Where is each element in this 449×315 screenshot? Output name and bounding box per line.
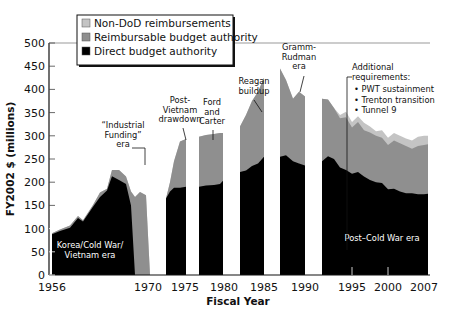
x-tick-label: 1985 xyxy=(250,281,278,294)
annotation: FordandCarter xyxy=(199,97,226,126)
y-tick-label: 200 xyxy=(24,176,45,189)
y-tick-label: 150 xyxy=(24,199,45,212)
x-tick-label: 1970 xyxy=(134,281,162,294)
requirements-title: Additionalrequirements: xyxy=(352,62,410,82)
x-tick-label: 2007 xyxy=(410,281,438,294)
x-tick-label: 1990 xyxy=(291,281,319,294)
legend-label: Non-DoD reimbursements xyxy=(94,17,231,29)
legend-swatch xyxy=(82,33,90,41)
y-tick-label: 50 xyxy=(31,246,45,259)
y-axis-title: FY2002 $ (millions) xyxy=(4,102,16,217)
x-tick-label: 1956 xyxy=(38,281,66,294)
direct-area xyxy=(240,157,264,275)
direct-area xyxy=(280,155,305,275)
y-tick-label: 100 xyxy=(24,223,45,236)
legend-swatch xyxy=(82,19,90,27)
requirement-item: • Trenton transition xyxy=(354,95,435,105)
annotation: Korea/Cold War/Vietnam era xyxy=(57,240,124,260)
legend-label: Direct budget authority xyxy=(94,45,217,57)
annotation: Post–Cold War era xyxy=(345,233,420,243)
legend-swatch xyxy=(82,47,90,55)
y-tick-label: 450 xyxy=(24,60,45,73)
y-tick-label: 400 xyxy=(24,83,45,96)
x-axis-title: Fiscal Year xyxy=(206,295,270,307)
annotation: “IndustrialFunding”era xyxy=(101,120,144,149)
y-tick-label: 300 xyxy=(24,130,45,143)
legend-label: Reimbursable budget authority xyxy=(94,31,258,43)
requirement-item: • PWT sustainment xyxy=(354,84,435,94)
direct-area xyxy=(199,181,223,275)
direct-area xyxy=(166,187,186,275)
y-tick-label: 500 xyxy=(24,37,45,50)
x-tick-label: 1995 xyxy=(338,281,366,294)
x-tick-label: 1975 xyxy=(171,281,199,294)
annotation: Gramm-Rudmanera xyxy=(282,42,316,71)
annotation: Reaganbuildup xyxy=(238,76,269,96)
y-tick-label: 250 xyxy=(24,153,45,166)
y-tick-label: 350 xyxy=(24,107,45,120)
x-tick-label: 1980 xyxy=(210,281,238,294)
annotation: Post-Vietnamdrawdown xyxy=(159,95,202,124)
chart: 0501001502002503003504004505001956197019… xyxy=(0,0,449,315)
legend: Non-DoD reimbursementsReimbursable budge… xyxy=(77,15,258,67)
x-tick-label: 2000 xyxy=(374,281,402,294)
requirement-item: • Tunnel 9 xyxy=(354,105,396,115)
